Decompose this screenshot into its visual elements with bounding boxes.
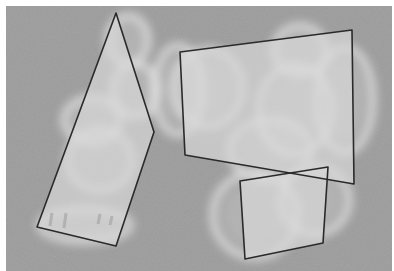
film-grain xyxy=(6,6,392,271)
photo-scene xyxy=(0,0,394,271)
chess-pieces-photo xyxy=(0,0,394,271)
